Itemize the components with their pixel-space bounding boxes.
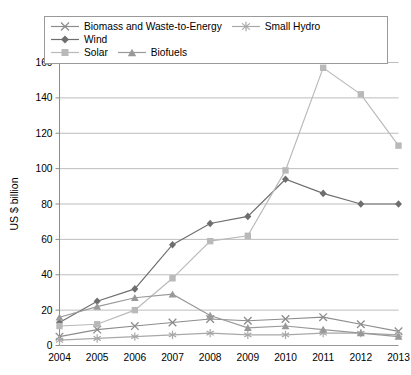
x-axis-tick-label: 2005: [86, 352, 109, 363]
x-axis-tick-label: 2012: [349, 352, 372, 363]
series-line-wind: [60, 179, 399, 322]
data-point-marker: [282, 167, 288, 173]
legend-marker-asterisk-icon: [231, 21, 261, 32]
x-axis-tick-label: 2011: [312, 352, 334, 363]
legend-row-2: Solar Biofuels: [50, 46, 382, 59]
data-point-marker: [132, 307, 138, 313]
data-point-marker: [320, 65, 326, 71]
data-point-marker: [245, 233, 251, 239]
y-axis-tick-label: 40: [41, 269, 53, 280]
data-point-marker: [320, 190, 327, 198]
data-point-marker: [169, 275, 175, 281]
data-point-marker: [357, 200, 364, 208]
legend-entry-solar[interactable]: Solar: [50, 46, 108, 59]
legend-marker-square-icon: [50, 47, 80, 58]
x-axis-tick-label: 2004: [48, 352, 71, 363]
data-point-marker: [207, 238, 213, 244]
data-point-marker: [206, 312, 214, 319]
legend-label-small-hydro: Small Hydro: [265, 20, 320, 33]
legend-marker-diamond-icon: [50, 34, 80, 45]
legend-entry-biofuels[interactable]: Biofuels: [117, 46, 187, 59]
y-axis-tick-label: 120: [36, 128, 53, 139]
legend-entry-wind[interactable]: Wind: [50, 33, 107, 46]
chart-legend: Biomass and Waste-to-Energy Small Hydro: [44, 16, 388, 64]
data-point-marker: [358, 91, 364, 97]
legend-marker-triangle-icon: [117, 47, 147, 58]
data-point-marker: [395, 200, 402, 208]
x-axis-tick-label: 2007: [161, 352, 184, 363]
series-line-solar: [60, 68, 399, 326]
y-axis-tick-label: 140: [36, 92, 53, 103]
legend-label-wind: Wind: [84, 33, 107, 46]
x-axis-tick-label: 2009: [236, 352, 259, 363]
x-axis-tick-label: 2010: [274, 352, 297, 363]
y-axis-tick-label: 20: [41, 305, 53, 316]
x-axis-tick-label: 2013: [387, 352, 410, 363]
legend-marker-x-icon: [50, 21, 80, 32]
x-axis-tick-label: 2008: [199, 352, 222, 363]
legend-entry-biomass-and-waste-to-energy[interactable]: Biomass and Waste-to-Energy: [50, 20, 222, 33]
y-axis-title: US $ billion: [8, 177, 20, 230]
legend-entry-small-hydro[interactable]: Small Hydro: [231, 20, 320, 33]
data-point-marker: [56, 323, 62, 329]
renewable-energy-investment-chart: Biomass and Waste-to-Energy Small Hydro: [0, 0, 411, 375]
legend-label-biofuels: Biofuels: [151, 46, 187, 59]
data-point-marker: [207, 220, 214, 228]
legend-label-solar: Solar: [84, 46, 108, 59]
y-axis-tick-label: 80: [41, 199, 53, 210]
legend-row-1: Biomass and Waste-to-Energy Small Hydro: [50, 20, 382, 46]
legend-label-biomass-and-waste-to-energy: Biomass and Waste-to-Energy: [84, 20, 222, 33]
y-axis-tick-label: 0: [47, 340, 53, 351]
x-axis-tick-label: 2006: [123, 352, 146, 363]
data-point-marker: [94, 321, 100, 327]
series-line-small-hydro: [60, 333, 399, 340]
data-point-marker: [395, 142, 401, 148]
y-axis-tick-label: 60: [41, 234, 53, 245]
y-axis-tick-label: 100: [36, 163, 53, 174]
series-line-biofuels: [60, 294, 399, 336]
